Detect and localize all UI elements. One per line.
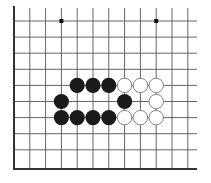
black-stone: [54, 94, 69, 109]
go-board: [0, 0, 211, 183]
white-stone: [149, 110, 163, 124]
black-stone: [70, 78, 85, 93]
white-stone: [133, 110, 147, 124]
black-stone: [85, 78, 100, 93]
black-stone: [101, 78, 116, 93]
white-stone: [149, 78, 163, 92]
black-stone: [117, 94, 132, 109]
black-stone: [101, 110, 116, 125]
black-stone: [54, 110, 69, 125]
white-stone: [117, 110, 131, 124]
white-stone: [149, 94, 163, 108]
white-stone: [133, 78, 147, 92]
black-stone: [70, 110, 85, 125]
star-point: [154, 19, 158, 23]
black-stone: [85, 110, 100, 125]
star-point: [59, 19, 63, 23]
white-stone: [117, 78, 131, 92]
